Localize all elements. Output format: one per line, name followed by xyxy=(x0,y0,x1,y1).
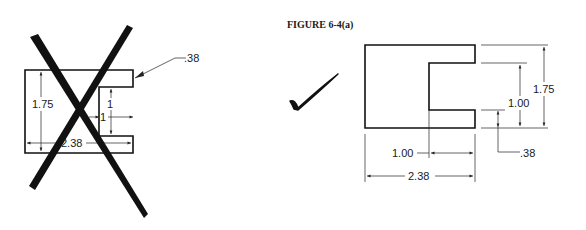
part-outline-correct xyxy=(365,45,475,128)
dim-slot-depth-label: 1.00 xyxy=(392,147,413,159)
correct-drawing: FIGURE 6-4(a) 1.75 1.00 .38 1.00 xyxy=(287,19,556,183)
dim-width-label: 2.38 xyxy=(408,170,429,182)
dim-slot-depth-label: 1 xyxy=(100,111,106,123)
dim-flange-label: .38 xyxy=(184,52,199,64)
dim-flange-label: .38 xyxy=(520,147,535,159)
figure-caption: FIGURE 6-4(a) xyxy=(287,19,353,31)
figure-canvas: 1.75 1 1 2.38 .38 FIGURE 6-4(a) xyxy=(0,0,586,230)
check-mark-icon xyxy=(290,74,338,110)
leader-flange xyxy=(498,127,520,152)
x-cross-icon xyxy=(29,25,148,218)
dim-slot-height-label: 1 xyxy=(107,98,113,110)
dim-slot-height-label: 1.00 xyxy=(508,97,529,109)
dim-height-label: 1.75 xyxy=(32,98,53,110)
incorrect-drawing: 1.75 1 1 2.38 .38 xyxy=(25,25,199,218)
dim-height-label: 1.75 xyxy=(533,83,554,95)
